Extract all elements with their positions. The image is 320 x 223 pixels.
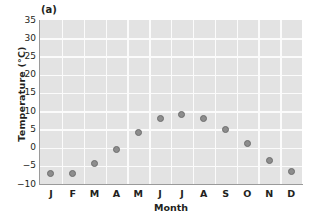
x-axis-tick-label: F — [63, 188, 83, 199]
x-axis-tick-label: J — [172, 188, 192, 199]
gridline-vertical — [237, 20, 238, 184]
y-axis-line — [39, 20, 40, 185]
data-point — [200, 115, 207, 122]
y-axis-tick-label: 0 — [10, 143, 36, 152]
gridline-vertical — [171, 20, 172, 184]
data-point — [135, 129, 142, 136]
x-axis-tick-label: M — [128, 188, 148, 199]
plot-area — [40, 20, 302, 184]
gridline-vertical — [258, 20, 259, 184]
x-axis-tick-label: A — [194, 188, 214, 199]
y-axis-tick-label: 10 — [10, 107, 36, 116]
y-axis-tick-label: 20 — [10, 70, 36, 79]
y-axis-tick-label: 35 — [10, 16, 36, 25]
gridline-vertical — [84, 20, 85, 184]
data-point — [288, 168, 295, 175]
gridline-vertical — [215, 20, 216, 184]
x-axis-tick-label: N — [259, 188, 279, 199]
gridline-vertical — [149, 20, 150, 184]
temperature-scatter-figure: (a) Temperature (°C) Month 3530252015105… — [0, 0, 320, 223]
x-axis-tick-label: O — [237, 188, 257, 199]
x-axis-title: Month — [40, 202, 302, 213]
x-axis-tick-label: J — [150, 188, 170, 199]
data-point — [244, 140, 251, 147]
gridline-vertical — [127, 20, 128, 184]
y-axis-tick-label: 30 — [10, 34, 36, 43]
y-axis-tick-label: 5 — [10, 125, 36, 134]
x-axis-tick-label: D — [281, 188, 301, 199]
gridline-vertical — [106, 20, 107, 184]
data-point — [178, 111, 185, 118]
gridline-vertical — [280, 20, 281, 184]
panel-label: (a) — [41, 4, 57, 16]
x-axis-tick-label: S — [216, 188, 236, 199]
y-axis-tick-label: −5 — [10, 161, 36, 170]
x-axis-tick-label: M — [85, 188, 105, 199]
y-axis-tick-label: −10 — [10, 180, 36, 189]
gridline-vertical — [193, 20, 194, 184]
x-axis-line — [40, 184, 303, 185]
data-point — [47, 170, 54, 177]
data-point — [113, 146, 120, 153]
y-axis-tick-label: 15 — [10, 88, 36, 97]
x-axis-tick-label: J — [41, 188, 61, 199]
data-point — [266, 157, 273, 164]
x-axis-tick-label: A — [106, 188, 126, 199]
y-axis-tick-label: 25 — [10, 52, 36, 61]
gridline-vertical — [62, 20, 63, 184]
data-point — [222, 126, 229, 133]
data-point — [69, 170, 76, 177]
data-point — [157, 115, 164, 122]
